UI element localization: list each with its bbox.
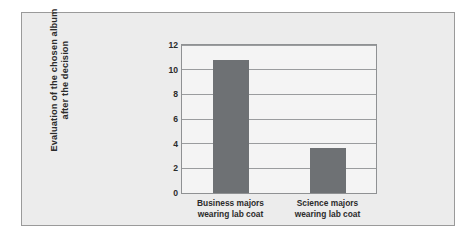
y-axis-title-line1: Evaluation of the chosen album	[49, 9, 60, 152]
x-axis-category-label: Science majorswearing lab coat	[295, 198, 361, 220]
plot-frame: 024681012Business majorswearing lab coat…	[181, 44, 377, 194]
y-axis-tick-label: 10	[168, 65, 182, 75]
y-axis-tick-label: 8	[173, 89, 182, 99]
x-axis-category-label-line: Science majors	[295, 198, 361, 209]
y-axis-tick-label: 4	[173, 139, 182, 149]
bar	[310, 148, 346, 193]
x-axis-category-label-line: wearing lab coat	[197, 209, 264, 220]
bar	[213, 60, 249, 193]
y-axis-title-line2: after the decision	[60, 41, 71, 120]
gridline	[182, 143, 376, 144]
y-axis-tick-label: 2	[173, 163, 182, 173]
y-axis-tick-label: 6	[173, 114, 182, 124]
y-axis-tick-label: 12	[168, 40, 182, 50]
gridline	[182, 45, 376, 46]
x-axis-category-label: Business majorswearing lab coat	[197, 198, 264, 220]
y-axis-title: Evaluation of the chosen album after the…	[43, 0, 77, 163]
y-axis-tick-label: 0	[173, 188, 182, 198]
gridline	[182, 69, 376, 70]
gridline	[182, 119, 376, 120]
chart-panel: Evaluation of the chosen album after the…	[21, 12, 455, 226]
x-axis-category-label-line: wearing lab coat	[295, 209, 361, 220]
gridline	[182, 168, 376, 169]
gridline	[182, 94, 376, 95]
figure-root: Evaluation of the chosen album after the…	[0, 0, 474, 242]
plot-area: 024681012Business majorswearing lab coat…	[160, 31, 377, 194]
x-axis-category-label-line: Business majors	[197, 198, 264, 209]
